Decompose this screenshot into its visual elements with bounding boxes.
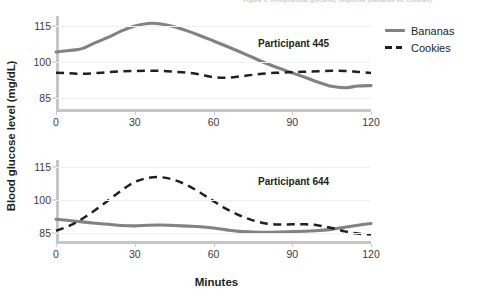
chart-panel-participant-644: 851001150306090120 xyxy=(22,152,377,270)
x-tick-mark xyxy=(135,112,136,115)
x-tick-mark xyxy=(135,244,136,247)
y-tick-mark xyxy=(52,25,56,26)
x-tick-label: 120 xyxy=(362,248,380,260)
x-tick-label: 60 xyxy=(208,116,220,128)
y-tick-mark xyxy=(52,166,56,167)
y-axis-title-text: Blood glucose level (mg/dL) xyxy=(5,61,17,212)
dashed-line-icon xyxy=(384,42,406,54)
annotation-participant-445: Participant 445 xyxy=(258,38,329,49)
plot-area-bottom: 851001150306090120 xyxy=(56,160,371,244)
cut-off-figure-header: Figure 2. Postprandial glycemic response… xyxy=(243,0,433,4)
y-tick-mark xyxy=(52,97,56,98)
y-tick-label: 85 xyxy=(39,92,51,104)
y-tick-mark xyxy=(52,199,56,200)
x-axis-title: Minutes xyxy=(56,276,377,288)
chart-panel-participant-445: 851001150306090120 xyxy=(22,8,377,138)
y-tick-label: 100 xyxy=(33,194,51,206)
x-tick-label: 30 xyxy=(129,116,141,128)
solid-line-icon xyxy=(384,25,406,37)
gridline xyxy=(56,233,371,234)
series-lines-bottom xyxy=(56,160,371,244)
y-tick-label: 85 xyxy=(39,227,51,239)
series-line-bananas xyxy=(56,23,371,87)
y-axis-title: Blood glucose level (mg/dL) xyxy=(0,0,22,272)
legend-item-bananas: Bananas xyxy=(384,22,476,39)
gridline xyxy=(56,26,371,27)
x-tick-label: 0 xyxy=(53,116,59,128)
x-tick-mark xyxy=(214,244,215,247)
legend-label-cookies: Cookies xyxy=(411,42,451,54)
gridline xyxy=(56,62,371,63)
y-tick-label: 100 xyxy=(33,56,51,68)
series-line-cookies xyxy=(56,71,371,78)
x-tick-label: 90 xyxy=(286,116,298,128)
x-tick-mark xyxy=(292,244,293,247)
x-tick-mark xyxy=(214,112,215,115)
x-tick-label: 30 xyxy=(129,248,141,260)
legend: Bananas Cookies xyxy=(384,22,476,56)
y-tick-mark xyxy=(52,61,56,62)
x-tick-mark xyxy=(371,112,372,115)
y-tick-label: 115 xyxy=(34,161,51,173)
gridline xyxy=(56,167,371,168)
x-tick-mark xyxy=(371,244,372,247)
x-tick-label: 0 xyxy=(53,248,59,260)
x-tick-mark xyxy=(56,112,57,115)
y-tick-label: 115 xyxy=(34,20,51,32)
x-tick-label: 90 xyxy=(286,248,298,260)
gridline xyxy=(56,200,371,201)
x-tick-label: 60 xyxy=(208,248,220,260)
legend-item-cookies: Cookies xyxy=(384,39,476,56)
plot-area-top: 851001150306090120 xyxy=(56,16,371,112)
x-tick-mark xyxy=(56,244,57,247)
figure-container: Figure 2. Postprandial glycemic response… xyxy=(0,0,477,300)
series-line-bananas xyxy=(56,219,371,232)
annotation-participant-644: Participant 644 xyxy=(258,176,329,187)
y-tick-mark xyxy=(52,232,56,233)
legend-label-bananas: Bananas xyxy=(411,25,454,37)
gridline xyxy=(56,98,371,99)
x-tick-mark xyxy=(292,112,293,115)
x-tick-label: 120 xyxy=(362,116,380,128)
